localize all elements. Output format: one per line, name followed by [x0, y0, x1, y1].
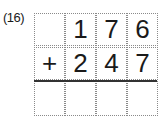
answer-cell-3[interactable] — [96, 81, 127, 116]
cell-r1-c2: 4 — [96, 47, 127, 80]
cell-r1-c0: + — [34, 47, 65, 80]
addition-grid: 1 7 6 + 2 4 7 — [34, 13, 157, 116]
cell-r0-c1: 1 — [65, 13, 96, 46]
answer-cell-4[interactable] — [127, 81, 158, 116]
answer-cell-1[interactable] — [34, 81, 65, 116]
cell-r0-c0 — [34, 13, 65, 46]
sum-line-divider — [34, 80, 157, 82]
cell-r1-c3: 7 — [127, 47, 158, 80]
cell-r1-c1: 2 — [65, 47, 96, 80]
cell-r0-c3: 6 — [127, 13, 158, 46]
cell-r0-c2: 7 — [96, 13, 127, 46]
problem-number: (16) — [3, 10, 24, 25]
answer-cell-2[interactable] — [65, 81, 96, 116]
